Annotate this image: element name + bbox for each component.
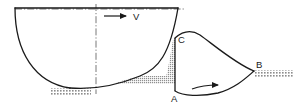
ground-support-left: [50, 88, 91, 96]
label-point-c: C: [178, 34, 185, 45]
velocity-label: V: [133, 11, 140, 22]
label-point-a: A: [171, 93, 178, 104]
jet-cross-section-shading: [114, 40, 175, 84]
jet-lower-surface: [175, 71, 254, 95]
ground-support-right: [255, 70, 293, 77]
label-point-b: B: [256, 59, 262, 70]
outgoing-jet-shade: [166, 40, 175, 77]
physics-diagram-figure: V C A B: [0, 0, 295, 106]
water-jet: [175, 32, 254, 96]
jet-upper-surface: [175, 32, 254, 71]
incoming-jet-shade: [114, 76, 175, 84]
velocity-arrow: V: [104, 11, 140, 22]
flow-arrow-shaft: [192, 85, 218, 89]
vane-left-wall: [15, 8, 70, 88]
flow-direction-arrow: [192, 85, 218, 89]
diagram-canvas: V C A B: [0, 0, 295, 106]
